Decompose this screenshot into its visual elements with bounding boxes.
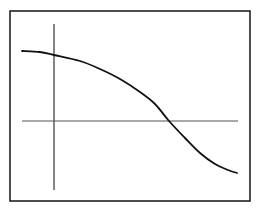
diagram-frame: [10, 11, 250, 201]
diagram-canvas: [0, 0, 257, 210]
